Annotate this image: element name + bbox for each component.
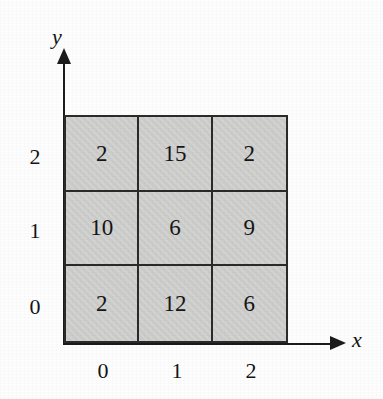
- x-tick-label-1: 1: [165, 360, 189, 382]
- value-grid: 2 15 2 10 6 9 2 12 6: [64, 115, 288, 343]
- x-axis-line: [63, 343, 334, 345]
- y-axis-label: y: [52, 26, 62, 48]
- grid-cell-value: 10: [90, 216, 113, 239]
- grid-cell-x1-y1: 6: [139, 192, 212, 267]
- grid-cell-value: 2: [96, 142, 108, 165]
- grid-cell-x1-y0: 12: [139, 266, 212, 341]
- grid-cell-value: 2: [244, 142, 256, 165]
- grid-cell-x0-y0: 2: [66, 266, 139, 341]
- grid-cell-x0-y1: 10: [66, 192, 139, 267]
- grid-cell-x2-y2: 2: [213, 117, 286, 192]
- grid-cell-value: 15: [163, 142, 186, 165]
- figure-canvas: y x 2 1 0 2 15 2 10 6 9 2 12 6: [0, 0, 383, 399]
- x-axis-label: x: [352, 329, 362, 351]
- grid-cell-x1-y2: 15: [139, 117, 212, 192]
- grid-cell-x2-y1: 9: [213, 192, 286, 267]
- grid-cell-value: 6: [169, 216, 181, 239]
- x-tick-label-0: 0: [91, 360, 115, 382]
- x-tick-label-2: 2: [239, 360, 263, 382]
- y-tick-label-0: 0: [23, 296, 47, 318]
- y-axis-arrow-icon: [57, 48, 71, 64]
- grid-cell-value: 9: [244, 216, 256, 239]
- y-tick-label-1: 1: [23, 220, 47, 242]
- grid-cell-value: 12: [163, 292, 186, 315]
- grid-cell-x2-y0: 6: [213, 266, 286, 341]
- x-axis-arrow-icon: [330, 336, 346, 350]
- grid-cell-x0-y2: 2: [66, 117, 139, 192]
- grid-cell-value: 6: [244, 292, 256, 315]
- grid-cell-value: 2: [96, 292, 108, 315]
- y-tick-label-2: 2: [23, 146, 47, 168]
